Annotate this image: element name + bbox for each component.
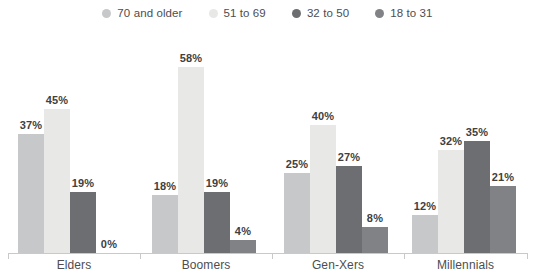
bar-value-label: 18% (154, 181, 177, 192)
bar[interactable] (178, 67, 204, 253)
bar[interactable] (18, 134, 44, 253)
legend-item-label: 32 to 50 (307, 8, 349, 20)
category-label: Boomers (140, 259, 272, 271)
legend-item[interactable]: 70 and older (102, 8, 182, 20)
legend-item-label: 18 to 31 (390, 8, 432, 20)
bar[interactable] (438, 150, 464, 253)
bar-column[interactable]: 12% (412, 30, 438, 253)
bar[interactable] (152, 195, 178, 253)
bar[interactable] (336, 166, 362, 253)
bar-column[interactable]: 0% (96, 30, 122, 253)
bar-column[interactable]: 32% (438, 30, 464, 253)
legend-swatch-icon (102, 9, 111, 18)
bar[interactable] (362, 227, 388, 253)
bar-value-label: 45% (46, 95, 69, 106)
bar-column[interactable]: 19% (70, 30, 96, 253)
bar-column[interactable]: 58% (178, 30, 204, 253)
bar-column[interactable]: 8% (362, 30, 388, 253)
bar-column[interactable]: 25% (284, 30, 310, 253)
bar-value-label: 35% (466, 127, 489, 138)
bar-value-label: 25% (286, 159, 309, 170)
bar[interactable] (44, 109, 70, 253)
bar-group: 18%58%19%4% (152, 30, 256, 253)
bar[interactable] (230, 240, 256, 253)
bar[interactable] (464, 141, 490, 253)
category-label: Gen-Xers (272, 259, 404, 271)
bar-column[interactable]: 40% (310, 30, 336, 253)
bar-group: 37%45%19%0% (18, 30, 122, 253)
category-label: Elders (8, 259, 140, 271)
bar-column[interactable]: 37% (18, 30, 44, 253)
bar-value-label: 19% (206, 178, 229, 189)
bar[interactable] (310, 125, 336, 253)
legend-swatch-icon (209, 9, 218, 18)
bar-value-label: 4% (235, 226, 251, 237)
legend-item-label: 51 to 69 (224, 8, 266, 20)
bar-value-label: 27% (338, 152, 361, 163)
category-label: Millennials (404, 259, 527, 271)
bar-column[interactable]: 18% (152, 30, 178, 253)
bar-column[interactable]: 4% (230, 30, 256, 253)
bar-column[interactable]: 45% (44, 30, 70, 253)
bar-value-label: 8% (367, 213, 383, 224)
legend-swatch-icon (292, 9, 301, 18)
plot-area: 37%45%19%0%18%58%19%4%25%40%27%8%12%32%3… (0, 30, 535, 253)
bar-group: 25%40%27%8% (284, 30, 388, 253)
bar-column[interactable]: 35% (464, 30, 490, 253)
bar-value-label: 0% (101, 239, 117, 250)
bar-value-label: 40% (312, 111, 335, 122)
legend-item[interactable]: 32 to 50 (292, 8, 349, 20)
bar[interactable] (412, 215, 438, 253)
bar[interactable] (490, 186, 516, 253)
bar[interactable] (70, 192, 96, 253)
x-axis-line (8, 253, 527, 254)
axis-tick (527, 253, 528, 259)
bar-group: 12%32%35%21% (412, 30, 516, 253)
legend-item-label: 70 and older (117, 8, 182, 20)
legend-swatch-icon (375, 9, 384, 18)
bar[interactable] (284, 173, 310, 253)
bar-value-label: 12% (414, 201, 437, 212)
legend-item[interactable]: 18 to 31 (375, 8, 432, 20)
legend-item[interactable]: 51 to 69 (209, 8, 266, 20)
bar-column[interactable]: 19% (204, 30, 230, 253)
bar-column[interactable]: 27% (336, 30, 362, 253)
bar[interactable] (204, 192, 230, 253)
bar-value-label: 21% (492, 172, 515, 183)
bar-value-label: 58% (180, 53, 203, 64)
bar-column[interactable]: 21% (490, 30, 516, 253)
chart-legend: 70 and older51 to 6932 to 5018 to 31 (0, 8, 535, 20)
grouped-bar-chart: 70 and older51 to 6932 to 5018 to 31 37%… (0, 0, 535, 279)
bar-value-label: 32% (440, 136, 463, 147)
bar-value-label: 19% (72, 178, 95, 189)
bar-value-label: 37% (20, 120, 43, 131)
